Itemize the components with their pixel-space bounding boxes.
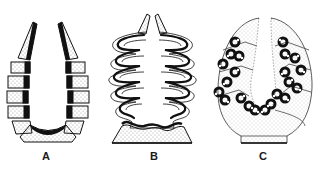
panel-c: C xyxy=(205,0,324,177)
panel-a-label: A xyxy=(36,150,56,162)
panel-b-label: B xyxy=(144,150,164,162)
panel-a: A xyxy=(0,0,100,177)
panel-c-label: C xyxy=(253,150,273,162)
panel-b: B xyxy=(100,0,205,177)
figure: A xyxy=(0,0,324,177)
